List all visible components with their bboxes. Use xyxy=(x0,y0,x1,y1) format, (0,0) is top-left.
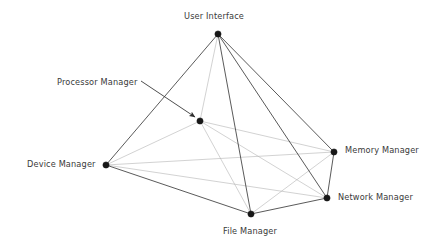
edge-file_manager-to-memory_manager xyxy=(251,152,334,214)
inner-edge-layer xyxy=(106,34,334,214)
node-dot-file-manager[interactable] xyxy=(248,211,254,217)
label-processor-manager: Processor Manager xyxy=(57,77,137,87)
diagram-canvas: User InterfaceProcessor ManagerDevice Ma… xyxy=(0,0,434,241)
edge-device_manager-to-file_manager xyxy=(106,165,251,214)
leader-line-layer xyxy=(141,81,195,117)
edge-processor_manager-to-network_manager xyxy=(200,121,327,198)
processor-manager-leader-line xyxy=(141,81,195,117)
outer-edge-layer xyxy=(106,34,334,214)
label-user-interface: User Interface xyxy=(184,11,244,21)
node-dot-device-manager[interactable] xyxy=(103,162,109,168)
edge-network_manager-to-memory_manager xyxy=(327,152,334,198)
edge-processor_manager-to-file_manager xyxy=(200,121,251,214)
node-dot-memory-manager[interactable] xyxy=(331,149,337,155)
edge-device_manager-to-memory_manager xyxy=(106,152,334,165)
label-file-manager: File Manager xyxy=(223,226,277,236)
edge-file_manager-to-network_manager xyxy=(251,198,327,214)
node-dot-processor-manager[interactable] xyxy=(197,118,203,124)
edge-processor_manager-to-memory_manager xyxy=(200,121,334,152)
label-network-manager: Network Manager xyxy=(338,192,413,202)
label-memory-manager: Memory Manager xyxy=(345,145,419,155)
edge-user_interface-to-memory_manager xyxy=(218,34,334,152)
label-device-manager: Device Manager xyxy=(27,159,96,169)
edge-user_interface-to-network_manager xyxy=(218,34,327,198)
node-dot-user-interface[interactable] xyxy=(215,31,221,37)
edge-device_manager-to-processor_manager xyxy=(106,121,200,165)
edge-device_manager-to-network_manager xyxy=(106,165,327,198)
edge-user_interface-to-file_manager xyxy=(218,34,251,214)
graph-svg xyxy=(0,0,434,241)
node-dot-network-manager[interactable] xyxy=(324,195,330,201)
edge-user_interface-to-device_manager xyxy=(106,34,218,165)
edge-user_interface-to-processor_manager xyxy=(200,34,218,121)
node-layer xyxy=(103,31,337,217)
